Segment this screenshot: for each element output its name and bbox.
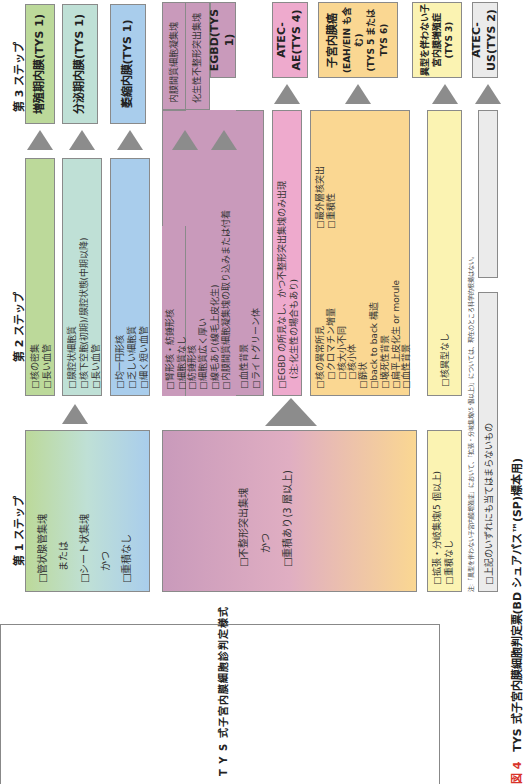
egbd-row-a: □腎形核・紡錘形核 □細胞質なし [162,226,186,396]
figure-number: 図 4 [511,762,524,784]
step2-atec-ae-box: □EGBD の所見なし、かつ不整形突出集塊のみ出現 (注:化生性の場合もあり) [272,110,302,396]
result-cancer: 子宮内膜癌 (EAH/EIN も含む) (TYS 5 または TYS 6) [318,2,398,78]
result-proliferative: 増殖期内膜(TYS 1) [25,4,55,124]
step1-none-box: □上記のいずれにも当てはまらないもの [478,292,498,592]
arrow-right-icon [69,130,95,150]
criterion: □最外層核突出 [315,166,326,229]
step3-header: 第 3 ステップ [10,42,26,112]
arrow-right-icon [265,398,317,426]
egbd-row-c-box: □血性背景 □ライトグリーン体 [236,110,264,396]
criterion: □腺腔状細胞質 [66,165,78,389]
criterion: 内膜間質細胞凝集塊 [163,3,185,109]
result-cancer-line: 子宮内膜癌 [326,13,341,68]
step1-normal-box: □管状腺管集塊 または □シート状集塊 かつ □重積なし [25,430,150,592]
criterion: 化生性不整形突出集塊 [186,3,208,109]
arrow-right-icon [475,84,501,104]
criterion: □腎形核・紡錘形核 [164,232,176,390]
criterion: □核大小不同 [337,280,348,389]
arrow-right-icon [117,130,143,150]
criterion: □血性背景 [238,117,250,389]
step2-malignant-box: □核の異常所見 □クロマチン増量 □核大小不同 □核小体 □篩状 □back t… [310,110,410,396]
result-atec-ae: ATEC-AE(TYS 4) [272,2,308,78]
result-egbd: EGBD(TYS 1) [210,2,236,78]
criterion: □長い血管 [41,165,53,389]
criterion: □クロマチン増量 [326,280,337,389]
step1-hyperplasia-box: □拡張・分岐集塊(5 個以上) □重積なし [427,430,462,592]
criterion: □内膜間質細胞凝集塊の取り込みまたは付着 [221,116,232,390]
egbd-metaplastic-cluster-box: 化生性不整形突出集塊 [186,2,210,110]
criterion: □重積あり(3 層以上) [277,439,299,567]
egbd-stromal-cluster-box: 内膜間質細胞凝集塊 [162,2,186,110]
criterion: □上記のいずれにも当てはまらないもの [479,293,499,591]
result-cancer-line: (EAH/EIN も含む) [341,3,365,77]
arrow-right-icon [172,130,198,150]
criterion: □血性背景 [401,280,412,389]
criterion: □細胞質広く厚い [198,116,209,390]
result-cancer-line: (TYS 5 または TYS 6) [365,3,389,77]
arrow-right-icon [345,84,371,104]
arrow-right-icon [27,130,53,150]
result-hyperplasia-line: 異型を伴わない子宮内膜増殖症 [419,3,443,77]
criterion: □重積なし [443,437,455,585]
criterion-connector: かつ [95,439,116,583]
criterion: □扁平上皮化生 or morule [391,280,402,389]
step2-header: 第 2 ステップ [10,292,26,362]
footnote: 注:「異型を伴わない子宮内膜増殖症」において、「拡張・分岐集塊(5 個以上)」に… [466,253,475,592]
result-atec-us: ATEC-US(TYS 2) [472,2,498,78]
criterion: □核の異常所見 [315,280,326,389]
arrow-right-icon [211,130,237,150]
criterion-connector: かつ [255,439,277,567]
criterion: □乏しい細胞質 [126,165,138,389]
criterion: □ライトグリーン体 [250,117,262,389]
criterion: □核小体 [347,280,358,389]
criterion: □均一円形核 [114,165,126,389]
criterion: □篩状 [358,280,369,389]
criterion: □線毛あり(線毛上皮化生) [210,116,221,390]
step2-atrophic-box: □均一円形核 □乏しい細胞質 □細く短い血管 [110,158,150,396]
step2-secretory-box: □腺腔状細胞質 □核下空胞(初期)/腺腔状態(中期以降) □長い血管 [62,158,102,396]
criterion: □核下空胞(初期)/腺腔状態(中期以降) [78,165,90,389]
criterion: □管状腺管集塊 [32,439,53,583]
figure-caption-text: TYS 式子宮内膜細胞判定票(BD シュアパス™(SP)標本用) [511,458,524,752]
criterion: □核の密集 [29,165,41,389]
criterion-connector: または [53,439,74,583]
criterion: □back to back 構造 [369,280,380,389]
egbd-row-b: □紡錘形核 □細胞質広く厚い □線毛あり(線毛上皮化生) □内膜間質細胞凝集塊の… [186,110,236,396]
step1-abnormal-box: □不整形突出集塊 かつ □重積あり(3 層以上) [162,430,417,592]
criterion: □壊死性背景 [380,280,391,389]
step2-proliferative-box: □核の密集 □長い血管 [25,158,55,396]
criterion: □核異型なし [428,111,462,395]
criterion: □紡錘形核 [187,116,198,390]
criterion: □拡張・分岐集塊(5 個以上) [431,437,443,585]
form-title: T Y S 式子宮内膜細胞診判定様式 [215,606,230,776]
result-atrophic: 萎縮内膜(TYS 1) [110,4,146,124]
criterion: □長い血管 [90,165,102,389]
criterion: □細く短い血管 [138,165,150,389]
criterion: □重積なし [116,439,137,583]
criterion: □シート状集塊 [74,439,95,583]
tys-flowchart: T Y S 式子宮内膜細胞診判定様式 第 1 ステップ 第 2 ステップ 第 3… [0,0,529,784]
result-hyperplasia: 異型を伴わない子宮内膜増殖症 (TYS 3) [412,2,462,78]
criterion: (注:化生性の場合もあり) [288,117,300,389]
arrow-right-icon [274,84,300,104]
criterion: □EGBD の所見なし、かつ不整形突出集塊のみ出現 [276,117,288,389]
step2-hyperplasia-box: □核異型なし [427,110,462,396]
criterion: □不整形突出集塊 [233,439,255,567]
arrow-right-icon [62,404,88,424]
arrow-right-icon [432,84,458,104]
criterion: □重積性 [326,166,337,229]
result-secretory: 分泌期内膜(TYS 1) [62,4,98,124]
step1-header: 第 1 ステップ [10,496,26,566]
result-hyperplasia-line: (TYS 3) [443,22,455,59]
figure-caption: 図 4 TYS 式子宮内膜細胞判定票(BD シュアパス™(SP)標本用) [508,458,524,784]
step2-atec-us-box [478,110,498,278]
